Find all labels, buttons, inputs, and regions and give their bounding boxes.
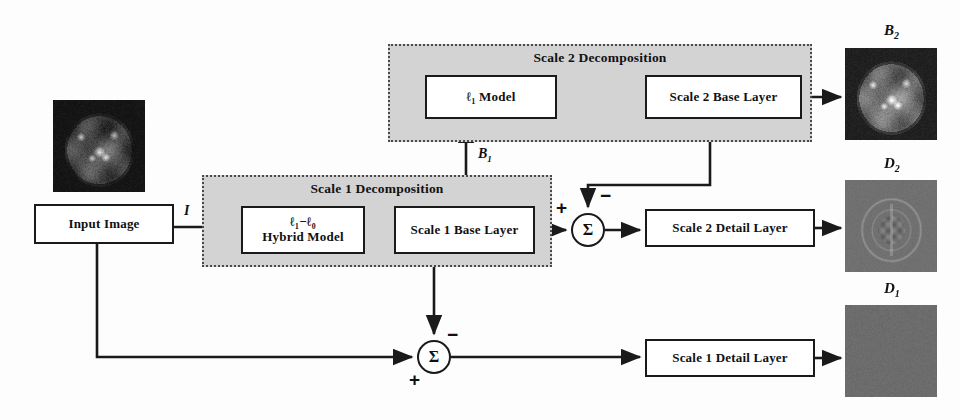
box-input-image[interactable]: Input Image xyxy=(34,204,174,244)
thumbnail-D1-label-text: D xyxy=(884,280,895,296)
thumbnail-D2 xyxy=(845,180,937,272)
sum-node-scale1[interactable]: Σ xyxy=(417,340,451,374)
sum-scale1-sign-plus: + xyxy=(409,370,420,389)
box-scale1-detail-layer[interactable]: Scale 1 Detail Layer xyxy=(645,339,815,377)
box-hybrid-model-label-line1: ℓ₁−ℓ₀ xyxy=(290,215,316,230)
sum-scale1-sign-minus: − xyxy=(447,325,458,344)
thumbnail-input-image xyxy=(53,100,145,192)
edge-label-I: I xyxy=(184,203,189,219)
sum-node-scale2-symbol: Σ xyxy=(583,221,593,239)
sum-node-scale1-symbol: Σ xyxy=(429,348,439,366)
box-l1-model[interactable]: ℓ₁ Model xyxy=(425,75,557,119)
box-hybrid-model[interactable]: ℓ₁−ℓ₀ Hybrid Model xyxy=(241,206,365,254)
edge-label-I-text: I xyxy=(184,203,189,218)
box-scale1-base-layer[interactable]: Scale 1 Base Layer xyxy=(394,206,535,254)
group-scale2-title: Scale 2 Decomposition xyxy=(388,50,812,66)
thumbnail-B2-label: B2 xyxy=(884,22,899,41)
box-hybrid-model-label-line2: Hybrid Model xyxy=(262,230,344,245)
edge-label-B1-sub: 1 xyxy=(487,154,492,164)
box-scale2-detail-layer[interactable]: Scale 2 Detail Layer xyxy=(645,209,815,247)
thumbnail-input-image-canvas xyxy=(53,100,145,192)
box-scale1-detail-layer-label: Scale 1 Detail Layer xyxy=(672,351,788,366)
group-scale1-title: Scale 1 Decomposition xyxy=(202,181,552,197)
box-l1-model-label: ℓ₁ Model xyxy=(466,90,515,105)
thumbnail-D1-label: D1 xyxy=(884,280,900,299)
thumbnail-D2-label-text: D xyxy=(884,155,895,171)
sum-node-scale2[interactable]: Σ xyxy=(571,213,605,247)
thumbnail-D2-canvas xyxy=(845,180,937,272)
box-scale2-detail-layer-label: Scale 2 Detail Layer xyxy=(672,221,788,236)
thumbnail-B2-label-text: B xyxy=(884,22,894,38)
thumbnail-D1-label-sub: 1 xyxy=(895,288,900,299)
sum-scale2-sign-plus: + xyxy=(556,198,567,217)
thumbnail-D2-label-sub: 2 xyxy=(895,163,900,174)
diagram-canvas: Scale 2 Decomposition Scale 1 Decomposit… xyxy=(0,0,960,420)
thumbnail-D1-canvas xyxy=(845,305,937,397)
thumbnail-D2-label: D2 xyxy=(884,155,900,174)
thumbnail-D1 xyxy=(845,305,937,397)
edge-label-B1-text: B xyxy=(478,146,487,161)
thumbnail-B2 xyxy=(845,48,937,140)
box-scale1-base-layer-label: Scale 1 Base Layer xyxy=(411,223,519,238)
thumbnail-B2-label-sub: 2 xyxy=(894,30,899,41)
thumbnail-B2-canvas xyxy=(845,48,937,140)
box-scale2-base-layer[interactable]: Scale 2 Base Layer xyxy=(645,75,802,119)
box-scale2-base-layer-label: Scale 2 Base Layer xyxy=(670,90,778,105)
box-input-image-label: Input Image xyxy=(68,217,139,232)
sum-scale2-sign-minus: − xyxy=(600,186,611,205)
edge-label-B1: B1 xyxy=(478,146,492,164)
